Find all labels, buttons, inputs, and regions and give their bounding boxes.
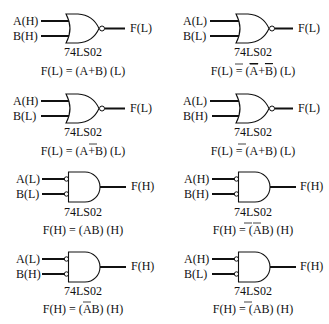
logic-gate-diagram: A(H) B(H) F(L) 74LS02 F(L) = (A+B) (L) A… [0, 0, 329, 324]
gate-3-equation: F(L) = (A+B) (L) [41, 144, 126, 158]
gate-5-chip-label: 74LS02 [64, 205, 102, 219]
gate-4-nor: A(L) B(H) F(L) 74LS02 F(L) = (A+B) (L) [183, 94, 320, 158]
gate-7-chip-label: 74LS02 [64, 284, 102, 298]
gate-7-input-a-label: A(L) [16, 252, 40, 266]
gate-1-nor-symbol [66, 14, 99, 43]
gate-3-chip-label: 74LS02 [64, 125, 102, 139]
gate-4-equation: F(L) = (A+B) (L) [211, 144, 296, 158]
gate-7-equation: F(H) = (AB) (H) [43, 302, 123, 316]
gate-3-input-a-label: A(H) [13, 94, 38, 108]
gate-8-equation: F(H) = (AB) (H) [213, 302, 293, 316]
gate-8-and-symbol [239, 252, 271, 282]
gate-4-chip-label: 74LS02 [234, 125, 272, 139]
gate-1-equation: F(L) = (A+B) (L) [41, 64, 126, 78]
gate-3-nor-symbol [66, 94, 99, 123]
gate-2-output-bubble [270, 26, 275, 31]
gate-5-and: A(L) B(L) F(H) 74LS02 F(H) = (AB) (H) [16, 172, 154, 237]
gate-2-chip-label: 74LS02 [234, 45, 272, 59]
gate-5-and-symbol [69, 172, 101, 202]
gate-6-and: A(H) B(H) F(H) 74LS02 F(H) = (AB) (H) [184, 172, 323, 237]
gate-6-input-a-label: A(H) [184, 172, 209, 186]
gate-6-and-symbol [239, 172, 271, 202]
gate-2-input-b-label: B(L) [183, 29, 206, 43]
gate-2-equation: F(L) = (A+B) (L) [211, 64, 296, 78]
gate-1-chip-label: 74LS02 [64, 45, 102, 59]
gate-7-input-b-label: B(H) [16, 267, 41, 281]
gate-4-input-a-label: A(L) [183, 94, 207, 108]
gate-3-output-label: F(L) [130, 101, 152, 115]
gate-8-output-label: F(H) [300, 259, 323, 273]
gate-2-input-a-label: A(L) [183, 14, 207, 28]
gate-7-output-label: F(H) [131, 259, 154, 273]
gate-4-input-b-label: B(H) [183, 109, 208, 123]
gate-8-input-b-label: B(L) [184, 267, 207, 281]
gate-6-equation: F(H) = (AB) (H) [213, 223, 293, 237]
gate-2-nor: A(L) B(L) F(L) 74LS02 F(L) = (A+B) (L) [183, 14, 320, 78]
gate-2-output-label: F(L) [298, 21, 320, 35]
gate-4-output-bubble [270, 106, 275, 111]
gate-1-output-bubble [100, 26, 105, 31]
gate-5-input-a-label: A(L) [16, 172, 40, 186]
gate-4-output-label: F(L) [298, 101, 320, 115]
gate-5-equation: F(H) = (AB) (H) [43, 223, 123, 237]
gate-6-input-b-label: B(H) [184, 187, 209, 201]
gate-8-input-a-label: A(H) [184, 252, 209, 266]
gate-3-output-bubble [100, 106, 105, 111]
gate-3-input-b-label: B(L) [13, 109, 36, 123]
gate-7-and-symbol [69, 252, 101, 282]
gate-4-nor-symbol [236, 94, 269, 123]
gate-1-output-label: F(L) [130, 21, 152, 35]
gate-8-and: A(H) B(L) F(H) 74LS02 F(H) = (AB) (H) [184, 252, 323, 316]
gate-7-and: A(L) B(H) F(H) 74LS02 F(H) = (AB) (H) [16, 252, 154, 316]
gate-5-output-label: F(H) [131, 179, 154, 193]
gate-6-chip-label: 74LS02 [234, 205, 272, 219]
gate-1-input-b-label: B(H) [13, 29, 38, 43]
gate-5-input-b-label: B(L) [16, 187, 39, 201]
gate-2-nor-symbol [236, 14, 269, 43]
gate-1-nor: A(H) B(H) F(L) 74LS02 F(L) = (A+B) (L) [13, 14, 152, 78]
gate-1-input-a-label: A(H) [13, 14, 38, 28]
gate-3-nor: A(H) B(L) F(L) 74LS02 F(L) = (A+B) (L) [13, 94, 152, 158]
gate-6-output-label: F(H) [300, 179, 323, 193]
gate-8-chip-label: 74LS02 [234, 284, 272, 298]
